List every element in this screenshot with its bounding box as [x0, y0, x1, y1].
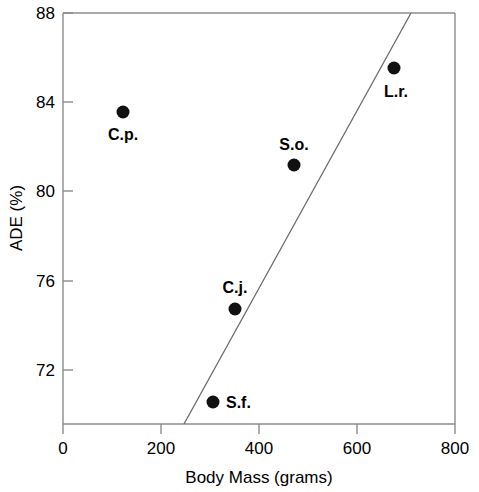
plot-canvas: 88 84 80 76 72 0 200 400 600 800 Body Ma…	[0, 0, 479, 492]
x-axis-tick-labels: 0 200 400 600 800	[58, 439, 469, 458]
x-tick-label-0: 0	[58, 439, 67, 458]
y-tick-label-84: 84	[36, 93, 55, 112]
data-point-labels: C.p. S.o. L.r. C.j. S.f.	[108, 83, 408, 411]
x-tick-label-200: 200	[147, 439, 175, 458]
data-label-sf: S.f.	[226, 394, 251, 411]
data-point-sf	[207, 396, 220, 409]
x-tick-label-800: 800	[441, 439, 469, 458]
data-point-lr	[388, 62, 401, 75]
data-point-so	[288, 159, 301, 172]
data-point-cp	[117, 106, 130, 119]
data-label-cj: C.j.	[223, 279, 248, 296]
data-points	[117, 62, 401, 409]
y-axis-title: ADE (%)	[7, 185, 26, 251]
x-axis-ticks	[63, 424, 455, 434]
y-tick-label-88: 88	[36, 4, 55, 23]
scatter-plot-figure: 88 84 80 76 72 0 200 400 600 800 Body Ma…	[0, 0, 479, 492]
data-point-cj	[229, 303, 242, 316]
y-tick-label-80: 80	[36, 182, 55, 201]
y-axis-ticks	[63, 13, 73, 370]
y-axis-tick-labels: 88 84 80 76 72	[36, 4, 55, 380]
x-tick-label-600: 600	[343, 439, 371, 458]
data-label-cp: C.p.	[108, 126, 138, 143]
trend-line	[184, 13, 411, 424]
x-tick-label-400: 400	[245, 439, 273, 458]
data-label-lr: L.r.	[384, 83, 408, 100]
data-label-so: S.o.	[279, 136, 308, 153]
plot-frame	[63, 13, 455, 424]
x-axis-title: Body Mass (grams)	[185, 468, 332, 487]
y-tick-label-72: 72	[36, 361, 55, 380]
y-tick-label-76: 76	[36, 272, 55, 291]
